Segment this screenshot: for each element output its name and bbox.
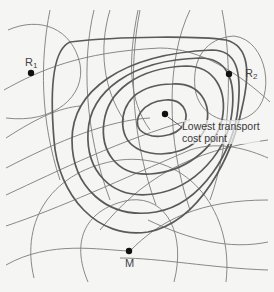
lowest-cost-point xyxy=(162,111,168,117)
lowest-cost-callout: Lowest transport cost point xyxy=(182,120,260,144)
m-label: M xyxy=(125,257,134,269)
r2-point xyxy=(226,71,232,77)
diagram-lines xyxy=(0,0,274,292)
r2-label: R2 xyxy=(245,67,257,83)
m-point xyxy=(126,248,132,254)
r1-label: R1 xyxy=(25,56,37,72)
isodapane-diagram: R1 R2 M Lowest transport cost point xyxy=(0,0,274,292)
callout-line-1: Lowest transport xyxy=(182,120,260,132)
callout-line-2: cost point xyxy=(182,132,260,144)
